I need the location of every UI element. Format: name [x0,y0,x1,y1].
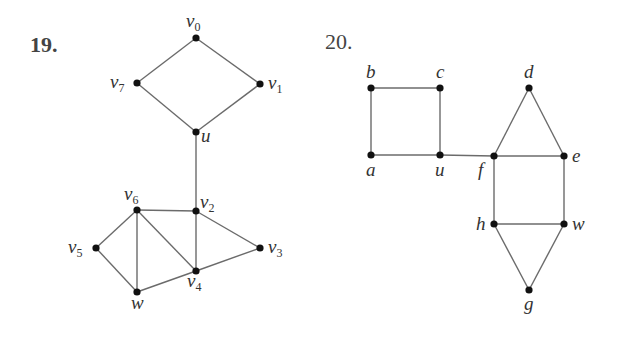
problem-number-19: 19. [30,32,58,57]
edge-v2-v3 [196,211,260,248]
label-v4: v4 [187,270,201,294]
vertex-w [560,220,567,227]
vertex-v3 [256,244,263,251]
vertex-c [436,84,443,91]
graph-20-edges [371,88,564,290]
label-c: c [436,61,445,82]
label-e: e [572,145,580,166]
label-v7: v7 [110,71,124,95]
edge-v5-w [96,248,137,292]
vertex-v1 [256,80,263,87]
vertex-d [525,84,532,91]
label-g: g [524,293,534,314]
label-v6: v6 [124,183,138,207]
edge-v0-v1 [196,38,260,84]
problem-number-20: 20. [325,29,353,54]
edge-v4-v3 [196,248,260,271]
problem-20: 20. b [325,29,585,314]
edge-v7-u [137,83,196,132]
edge-f-d [494,88,529,156]
edge-v6-v4 [137,210,196,271]
vertex-h [490,220,497,227]
label-v0: v0 [186,10,200,34]
label-u: u [435,159,445,180]
graph-exercises-figure: 19. [0,0,620,353]
vertex-b [367,84,374,91]
edge-h-g [494,224,529,290]
label-b: b [366,61,376,82]
vertex-v7 [133,79,140,86]
label-w: w [572,213,585,234]
label-w: w [131,292,144,313]
vertex-a [367,151,374,158]
edge-d-e [529,88,564,156]
vertex-v5 [92,244,99,251]
vertex-v2 [192,207,199,214]
vertex-u [436,151,443,158]
label-v3: v3 [268,236,282,260]
vertex-u [192,128,199,135]
graph-19-labels: v0 v1 v7 u v2 v6 v5 v3 v4 w [68,10,282,313]
label-v2: v2 [200,191,214,215]
edge-v0-v7 [137,38,196,83]
edge-v6-v2 [137,210,196,211]
label-h: h [476,213,486,234]
vertex-v0 [192,34,199,41]
vertex-e [560,152,567,159]
graph-20-vertices [367,84,567,293]
vertex-f [490,152,497,159]
edge-w-g [529,224,564,290]
graph-20-labels: b c a u f e d h w g [366,61,585,314]
label-d: d [524,61,534,82]
vertex-v6 [133,206,140,213]
label-v1: v1 [268,72,282,96]
label-a: a [366,159,376,180]
label-v5: v5 [68,236,82,260]
problem-19: 19. [30,10,282,313]
label-u: u [201,125,211,146]
label-f: f [478,159,486,180]
graph-19-edges [96,38,260,292]
edge-v6-v5 [96,210,137,248]
edge-u-f [440,155,494,156]
